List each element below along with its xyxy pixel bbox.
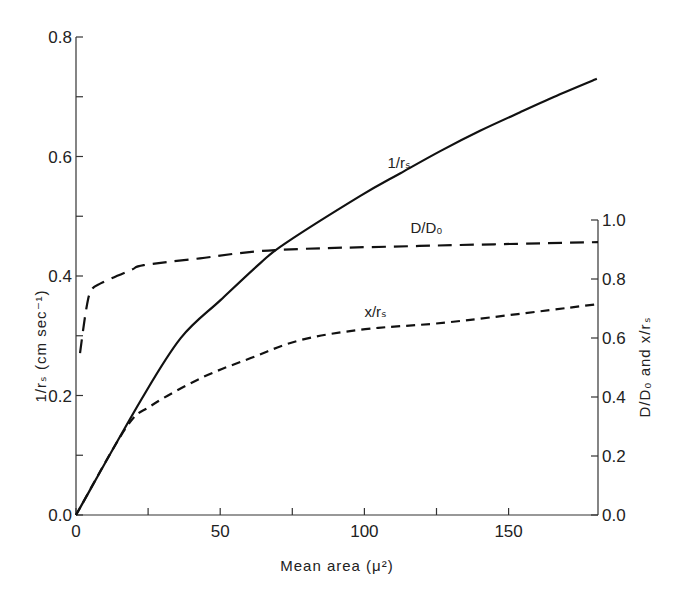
left-y-tick-label: 0.2	[48, 387, 72, 406]
right-y-tick-label: 0.8	[602, 270, 626, 289]
left-y-tick-label: 0.8	[48, 28, 72, 47]
axis-ticks	[76, 37, 598, 515]
left-y-tick-label: 0.0	[48, 506, 72, 525]
series-labels: 1/rₛD/D₀x/rₛ	[364, 154, 442, 320]
series-label-1: D/D₀	[411, 219, 443, 236]
data-curves	[76, 79, 598, 515]
right-y-tick-label: 0.6	[602, 329, 626, 348]
right-y-tick-label: 0.2	[602, 447, 626, 466]
right-y-tick-label: 0.0	[602, 506, 626, 525]
series-curve-2	[76, 304, 598, 515]
axis-tick-labels: 0501001500.00.20.40.60.80.00.20.40.60.81…	[48, 28, 625, 541]
series-curve-0	[76, 79, 597, 515]
right-y-tick-label: 0.4	[602, 388, 626, 407]
series-label-0: 1/rₛ	[387, 154, 411, 171]
left-y-axis-title: 1/rₛ (cm sec⁻¹)	[32, 289, 49, 402]
x-tick-label: 100	[350, 522, 378, 541]
right-y-tick-label: 1.0	[602, 211, 626, 230]
series-label-2: x/rₛ	[364, 303, 387, 320]
x-tick-label: 50	[211, 522, 230, 541]
left-y-tick-label: 0.4	[48, 267, 72, 286]
x-tick-label: 150	[494, 522, 522, 541]
right-y-axis-title: D/D₀ and x/rₛ	[636, 316, 653, 417]
chart: 0501001500.00.20.40.60.80.00.20.40.60.81…	[0, 0, 674, 594]
series-curve-1	[80, 242, 598, 353]
left-y-tick-label: 0.6	[48, 148, 72, 167]
x-tick-label: 0	[71, 522, 80, 541]
x-axis-title: Mean area (μ²)	[280, 557, 394, 574]
plot-frame	[76, 37, 598, 515]
